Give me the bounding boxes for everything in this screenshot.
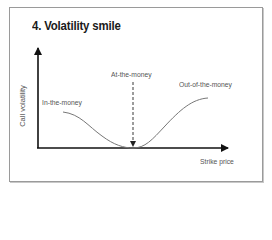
- y-axis-label: Call volatility: [18, 85, 27, 127]
- out-of-the-money-label: Out-of-the-money: [179, 80, 232, 89]
- x-axis-label: Strike price: [200, 157, 234, 166]
- in-the-money-label: In-the-money: [42, 98, 82, 107]
- smile-curve: [63, 98, 208, 148]
- at-the-money-label: At-the-money: [111, 70, 152, 79]
